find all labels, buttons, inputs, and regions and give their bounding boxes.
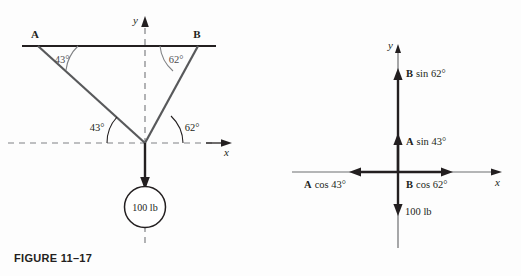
vector-b-sin-62-arrowhead: [393, 68, 402, 80]
vector-weight-label: 100 lb: [405, 206, 432, 217]
y-axis-arrowhead: [141, 16, 149, 27]
x-axis-arrowhead: [491, 168, 502, 175]
figure-11-17-diagram: y x A B 43° 62° 43°: [0, 0, 262, 250]
y-axis-label: y: [387, 39, 393, 51]
figure-11-18-diagram: y x Bsin 62° Asin 43° Acos 43° Bcos 62°: [262, 0, 521, 250]
x-axis-label: x: [494, 176, 500, 188]
rope-b-label: B: [193, 28, 201, 40]
vector-b-cos-62-label: Bcos 62°: [406, 179, 447, 190]
angle-a-top-label: 43°: [55, 54, 70, 65]
vector-b-cos-62-bold: B: [406, 179, 413, 190]
figure-11-17-caption: FIGURE 11–17: [14, 252, 92, 264]
vector-a-cos-43-bold: A: [304, 179, 312, 190]
y-axis-arrowhead: [395, 44, 401, 53]
angle-b-bottom-label: 62°: [185, 122, 200, 133]
x-axis-label: x: [223, 146, 229, 158]
vector-b-sin-62-label: Bsin 62°: [406, 68, 446, 79]
angle-arc-a-bottom: [107, 117, 117, 143]
angle-b-top-label: 62°: [169, 54, 184, 65]
vector-a-sin-43-rest: sin 43°: [417, 136, 447, 147]
figure-page: y x A B 43° 62° 43°: [0, 0, 521, 276]
vector-b-cos-62-rest: cos 62°: [416, 179, 447, 190]
vector-a-sin-43-label: Asin 43°: [406, 136, 446, 147]
angle-a-bottom-label: 43°: [90, 122, 105, 133]
figure-11-17: y x A B 43° 62° 43°: [0, 0, 262, 276]
vector-weight-arrowhead: [393, 204, 402, 216]
vector-a-sin-43-arrowhead: [393, 133, 402, 145]
vector-a-sin-43-bold: A: [406, 136, 414, 147]
vector-a-cos-43-label: Acos 43°: [304, 179, 346, 190]
y-axis-label: y: [132, 14, 138, 26]
weight-label: 100 lb: [132, 202, 157, 213]
vector-b-sin-62-bold: B: [406, 68, 413, 79]
angle-arc-b-bottom: [171, 116, 183, 143]
rope-a-label: A: [31, 28, 39, 40]
vector-a-cos-43-arrowhead: [349, 167, 361, 176]
vector-b-cos-62-arrowhead: [441, 167, 453, 176]
figure-11-18: y x Bsin 62° Asin 43° Acos 43° Bcos 62°: [262, 0, 521, 276]
vector-b-sin-62-rest: sin 62°: [416, 68, 446, 79]
vector-a-cos-43-rest: cos 43°: [315, 179, 346, 190]
